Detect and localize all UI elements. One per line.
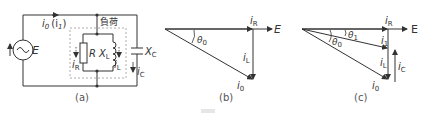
resistor-icon xyxy=(80,43,87,63)
c-phasor-i1 xyxy=(302,29,387,48)
capacitor-icon xyxy=(131,48,143,54)
b-label-i0: i0 xyxy=(237,80,244,93)
load-label: 負荷 xyxy=(100,16,118,27)
c-label-i1: i1 xyxy=(381,35,388,48)
c-label-i0: i0 xyxy=(372,80,379,93)
figure-canvas: E i0(i1) 負荷 R XL XC iR iL iC (a) E iR iL… xyxy=(0,0,425,113)
b-label-ir: iR xyxy=(250,15,258,28)
capacitor-label: XC xyxy=(144,46,157,59)
c-label-theta1: θ1 xyxy=(348,30,358,42)
inductor-label: XL xyxy=(98,48,110,61)
b-label-il: iL xyxy=(243,52,250,65)
figure-power-factor-correction: E i0(i1) 負荷 R XL XC iR iL iC (a) E iR iL… xyxy=(0,0,425,113)
label-il: iL xyxy=(114,59,121,72)
phasor-i0 xyxy=(165,29,252,79)
panel-a-circuit xyxy=(10,15,143,86)
c-label-ic: iC xyxy=(398,61,406,74)
b-label-theta0: θ0 xyxy=(197,35,207,47)
caption-c: (c) xyxy=(354,92,367,103)
source-label: E xyxy=(32,44,39,57)
label-i0-i1: i0(i1) xyxy=(42,18,66,31)
angle-arc-theta0-c xyxy=(329,30,331,42)
angle-arc-theta1 xyxy=(345,30,346,36)
c-phasor-i0 xyxy=(302,29,387,79)
label-ic: iC xyxy=(137,66,145,79)
angle-arc-theta0 xyxy=(192,30,195,43)
caption-a: (a) xyxy=(75,92,89,103)
c-label-ir: iR xyxy=(385,15,393,28)
b-label-e: E xyxy=(274,23,281,36)
c-label-il: iL xyxy=(380,57,387,70)
cutoff-figure-caption xyxy=(201,109,215,113)
resistor-label: R xyxy=(89,48,96,59)
panel-b-phasor xyxy=(165,29,272,79)
label-ir: iR xyxy=(72,59,80,72)
caption-b: (b) xyxy=(219,92,233,103)
c-label-e: E xyxy=(411,23,418,36)
